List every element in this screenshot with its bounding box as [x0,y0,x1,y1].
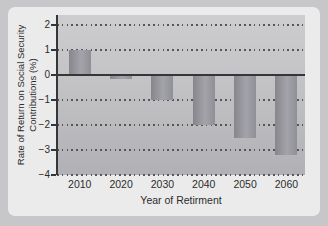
y-tick-label-0: 0 [26,70,50,80]
zero-axis-line [57,74,305,76]
y-tick-label--4: −4 [26,170,50,180]
gridline-y-2 [57,24,305,26]
x-tick-label-2050: 2050 [233,178,256,190]
y-tick-mark--1 [51,99,56,101]
y-tick-mark-0 [51,74,56,76]
figure: Rate of Return on Social Security Contri… [0,0,328,226]
y-tick-mark--2 [51,124,56,126]
y-tick-label--1: −1 [26,95,50,105]
y-tick-mark-1 [51,49,56,51]
y-tick-mark--4 [51,174,56,176]
gridline-y--4 [57,174,305,176]
x-tick-label-2040: 2040 [192,178,215,190]
bar-2030 [151,75,173,100]
plot-area [57,15,305,175]
bar-2040 [193,75,215,125]
y-tick-label--3: −3 [26,145,50,155]
y-axis-line [56,15,58,175]
gridline-y--2 [57,124,305,126]
y-tick-mark--3 [51,149,56,151]
x-tick-label-2030: 2030 [151,178,174,190]
x-tick-label-2020: 2020 [109,178,132,190]
gridline-y--1 [57,99,305,101]
y-tick-mark-2 [51,24,56,26]
gridline-y--3 [57,149,305,151]
x-tick-label-2060: 2060 [275,178,298,190]
x-tick-label-2010: 2010 [68,178,91,190]
y-tick-label-1: 1 [26,45,50,55]
gridline-y-1 [57,49,305,51]
x-axis-title: Year of Retirment [140,194,221,206]
y-tick-label--2: −2 [26,120,50,130]
bar-2010 [69,50,91,75]
bar-2050 [234,75,256,138]
y-tick-label-2: 2 [26,20,50,30]
bar-2060 [275,75,297,155]
